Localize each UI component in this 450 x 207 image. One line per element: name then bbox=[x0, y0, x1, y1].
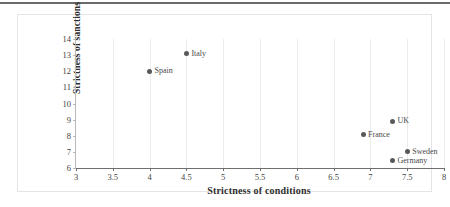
y-tick-label: 7 bbox=[51, 147, 71, 156]
gridline-vertical bbox=[150, 39, 151, 168]
data-point-marker[interactable] bbox=[184, 51, 189, 56]
x-tick-label: 6.5 bbox=[319, 173, 349, 182]
data-point-marker[interactable] bbox=[147, 69, 152, 74]
x-tick-label: 7.5 bbox=[392, 173, 422, 182]
y-tick-label: 8 bbox=[51, 131, 71, 140]
x-tick-mark bbox=[76, 168, 77, 171]
x-tick-label: 3.5 bbox=[98, 173, 128, 182]
x-axis-title: Strictness of conditions bbox=[75, 185, 443, 196]
y-tick-mark bbox=[73, 39, 76, 40]
y-tick-label: 14 bbox=[51, 35, 71, 44]
y-tick-mark bbox=[73, 152, 76, 153]
data-point-label: Spain bbox=[155, 67, 173, 75]
x-tick-mark bbox=[407, 168, 408, 171]
x-tick-label: 4.5 bbox=[171, 173, 201, 182]
data-point-marker[interactable] bbox=[405, 149, 410, 154]
x-tick-label: 5.5 bbox=[245, 173, 275, 182]
x-tick-mark bbox=[444, 168, 445, 171]
y-tick-mark bbox=[73, 168, 76, 169]
x-tick-label: 8 bbox=[429, 173, 450, 182]
gridline-vertical bbox=[370, 39, 371, 168]
data-point-label: Germany bbox=[397, 157, 427, 165]
top-horizontal-rule bbox=[0, 2, 450, 4]
x-tick-label: 6 bbox=[282, 173, 312, 182]
gridline-vertical bbox=[334, 39, 335, 168]
chart-frame: Strictness of sanctions 33.544.555.566.5… bbox=[17, 14, 432, 192]
x-tick-mark bbox=[370, 168, 371, 171]
x-tick-label: 7 bbox=[355, 173, 385, 182]
x-tick-mark bbox=[150, 168, 151, 171]
gridline-vertical bbox=[223, 39, 224, 168]
x-tick-mark bbox=[260, 168, 261, 171]
x-tick-mark bbox=[113, 168, 114, 171]
y-tick-mark bbox=[73, 136, 76, 137]
x-tick-mark bbox=[297, 168, 298, 171]
y-tick-mark bbox=[73, 87, 76, 88]
y-tick-label: 6 bbox=[51, 164, 71, 173]
y-tick-mark bbox=[73, 71, 76, 72]
x-tick-label: 3 bbox=[61, 173, 91, 182]
data-point-marker[interactable] bbox=[361, 132, 366, 137]
y-tick-mark bbox=[73, 104, 76, 105]
data-point-marker[interactable] bbox=[390, 119, 395, 124]
gridline-vertical bbox=[260, 39, 261, 168]
data-point-label: France bbox=[368, 131, 390, 139]
y-tick-mark bbox=[73, 120, 76, 121]
gridline-vertical bbox=[444, 39, 445, 168]
x-tick-mark bbox=[334, 168, 335, 171]
data-point-label: Italy bbox=[191, 50, 206, 58]
x-tick-label: 5 bbox=[208, 173, 238, 182]
x-tick-label: 4 bbox=[135, 173, 165, 182]
y-tick-label: 13 bbox=[51, 51, 71, 60]
y-tick-label: 9 bbox=[51, 115, 71, 124]
plot-area: 33.544.555.566.577.5814131211109876Italy… bbox=[75, 39, 444, 169]
gridline-vertical bbox=[297, 39, 298, 168]
y-tick-label: 10 bbox=[51, 99, 71, 108]
y-tick-label: 12 bbox=[51, 67, 71, 76]
gridline-vertical bbox=[113, 39, 114, 168]
gridline-vertical bbox=[186, 39, 187, 168]
y-tick-mark bbox=[73, 55, 76, 56]
x-tick-mark bbox=[223, 168, 224, 171]
data-point-label: Sweden bbox=[412, 148, 437, 156]
data-point-marker[interactable] bbox=[390, 158, 395, 163]
y-tick-label: 11 bbox=[51, 83, 71, 92]
x-tick-mark bbox=[186, 168, 187, 171]
data-point-label: UK bbox=[397, 117, 409, 125]
